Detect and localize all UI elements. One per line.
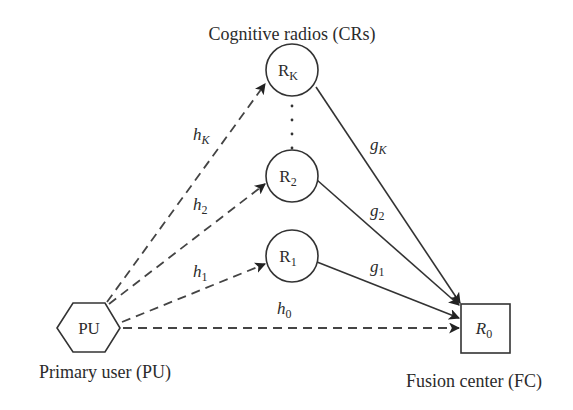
label-h-0: h0 [277,299,292,321]
cooperative-sensing-diagram: Cognitive radios (CRs) RK R2 R1 PU [0,0,573,410]
edge-h-2 [109,184,265,304]
fusion-center-label: R [475,319,487,338]
edge-h-k [107,84,265,302]
node-r-k-sub: K [289,69,298,83]
node-r-1: R1 [266,230,318,282]
label-g-2: g2 [370,201,385,223]
node-r-2: R2 [266,150,318,202]
label-h-k: hK [193,125,211,147]
node-r-k-label: R [278,61,290,80]
node-r-1-label: R [279,247,291,266]
ellipsis-dots [291,105,294,150]
node-primary-user: PU [57,303,120,352]
fusion-center-sub: 0 [486,327,492,341]
node-fusion-center: R0 [461,304,510,353]
label-h-1: h1 [193,262,208,284]
node-r-2-label: R [279,167,291,186]
edge-g-2 [317,180,459,305]
label-h-2: h2 [193,195,208,217]
cognitive-radios-title: Cognitive radios (CRs) [209,24,376,45]
primary-user-caption: Primary user (PU) [39,362,171,383]
node-r-2-sub: 2 [291,175,297,189]
node-r-k: RK [266,44,318,96]
node-r-1-sub: 1 [291,255,297,269]
primary-user-label: PU [78,319,100,338]
fusion-center-caption: Fusion center (FC) [406,371,542,392]
label-g-1: g1 [370,257,385,279]
label-g-k: gK [370,135,388,157]
